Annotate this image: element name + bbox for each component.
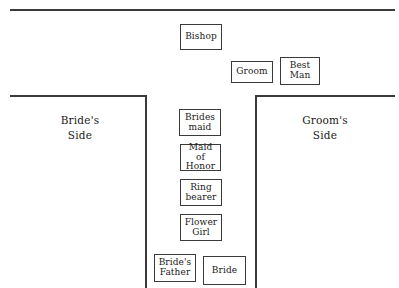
box-brides-father[interactable]: Bride's Father: [154, 254, 196, 282]
box-bride[interactable]: Bride: [203, 256, 246, 285]
altar-rule-top: [10, 9, 395, 11]
box-maid-of-honor[interactable]: Maid of Honor: [180, 144, 221, 171]
box-best-man[interactable]: Best Man: [280, 57, 320, 85]
box-flower-girl[interactable]: Flower Girl: [180, 214, 222, 241]
brides-side-rule-horizontal: [10, 95, 147, 97]
box-ring-bearer[interactable]: Ring bearer: [180, 179, 222, 206]
brides-side-aisle-wall: [145, 95, 147, 288]
box-bishop[interactable]: Bishop: [180, 24, 222, 50]
grooms-side-rule-horizontal: [255, 95, 395, 97]
box-groom[interactable]: Groom: [231, 61, 273, 83]
grooms-side-aisle-wall: [255, 95, 257, 288]
wedding-processional-diagram: Bride's Side Groom's Side Bishop Groom B…: [0, 0, 399, 288]
grooms-side-label: Groom's Side: [285, 113, 365, 143]
brides-side-label: Bride's Side: [40, 113, 120, 143]
box-bridesmaid[interactable]: Brides maid: [179, 109, 221, 136]
